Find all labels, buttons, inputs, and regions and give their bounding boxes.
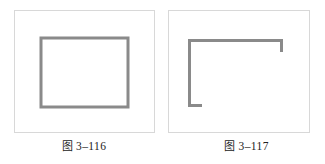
figure-caption-number-3-117: 3–117 [239, 140, 269, 152]
rectangle-outline [41, 38, 128, 107]
figure-caption-number-3-116: 3–116 [76, 140, 106, 152]
open-bracket-drawing [169, 11, 309, 132]
figure-panel-3-117 [168, 10, 310, 133]
figure-caption-3-117: 图3–117 [168, 139, 325, 154]
figure-caption-label-3-117: 图 [224, 140, 235, 153]
drawing-canvas-3-116 [15, 11, 154, 132]
figure-sheet: 图3–116 图3–117 [0, 0, 325, 164]
figure-panel-3-116 [14, 10, 155, 133]
closed-rectangle-drawing [15, 11, 154, 132]
drawing-canvas-3-117 [169, 11, 309, 132]
figure-block-3-116: 图3–116 [0, 0, 168, 164]
figure-caption-3-116: 图3–116 [0, 139, 168, 154]
figure-caption-label-3-116: 图 [62, 140, 73, 153]
figure-block-3-117: 图3–117 [168, 0, 325, 164]
